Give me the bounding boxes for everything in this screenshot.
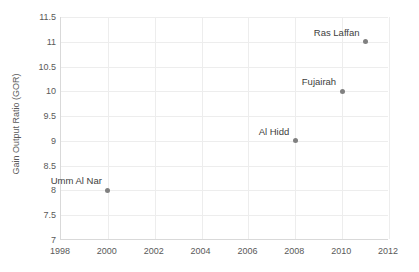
gridline-vertical	[155, 17, 156, 239]
gridline-vertical	[389, 17, 390, 239]
y-axis-tick-label: 9.5	[4, 111, 56, 121]
y-axis-tick-label: 11.5	[4, 12, 56, 22]
plot-area: Umm Al NarAl HiddFujairahRas Laffan	[60, 17, 388, 240]
gridline-vertical	[202, 17, 203, 239]
data-point-label: Umm Al Nar	[51, 175, 102, 187]
gridline-horizontal	[61, 42, 388, 43]
y-axis-tick-label: 9	[4, 136, 56, 146]
data-point[interactable]	[105, 188, 110, 193]
x-axis-tick-labels: 19982000200220042006200820102012	[0, 246, 419, 260]
y-axis-tick-label: 10.5	[4, 62, 56, 72]
y-axis-tick-label: 8.5	[4, 161, 56, 171]
data-point[interactable]	[340, 89, 345, 94]
data-point-label: Fujairah	[302, 76, 336, 88]
data-point[interactable]	[293, 138, 298, 143]
y-axis-tick-label: 7.5	[4, 210, 56, 220]
gridline-horizontal	[61, 116, 388, 117]
scatter-chart: Gain Output Ratio (GOR) 77.588.599.51010…	[0, 0, 419, 272]
y-axis-tick-label: 7	[4, 235, 56, 245]
data-point-label: Ras Laffan	[314, 27, 360, 39]
data-point-label: Al Hidd	[259, 126, 290, 138]
x-axis-tick-label: 2012	[358, 246, 418, 257]
gridline-horizontal	[61, 17, 388, 18]
y-axis-tick-label: 11	[4, 37, 56, 47]
gridline-horizontal	[61, 190, 388, 191]
gridline-vertical	[108, 17, 109, 239]
gridline-horizontal	[61, 141, 388, 142]
gridline-vertical	[248, 17, 249, 239]
data-point[interactable]	[363, 39, 368, 44]
y-axis-tick-label: 10	[4, 86, 56, 96]
y-axis-tick-labels: 77.588.599.51010.51111.5	[0, 0, 56, 272]
gridline-horizontal	[61, 67, 388, 68]
gridline-horizontal	[61, 215, 388, 216]
gridline-vertical	[295, 17, 296, 239]
gridline-horizontal	[61, 91, 388, 92]
gridline-vertical	[342, 17, 343, 239]
y-axis-tick-label: 8	[4, 185, 56, 195]
gridline-horizontal	[61, 166, 388, 167]
